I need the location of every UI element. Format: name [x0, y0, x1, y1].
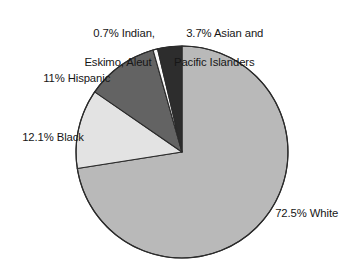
slice-label-asian-pacific-islanders-line1: 3.7% Asian and — [186, 27, 263, 39]
slice-label-asian-pacific-islanders-line2: Pacific Islanders — [174, 55, 294, 69]
slice-label-white-line1: 72.5% White — [275, 207, 338, 219]
slice-label-hispanic-line1: 11% Hispanic — [43, 72, 110, 84]
slice-label-hispanic: 11% Hispanic — [31, 57, 110, 100]
slice-label-indian-eskimo-aleut-line1: 0.7% Indian, — [93, 27, 155, 39]
slice-label-white: 72.5% White — [263, 192, 338, 235]
pie-chart-figure: 0.7% Indian, Eskimo, Aleut 3.7% Asian an… — [0, 0, 362, 272]
slice-label-black: 12.1% Black — [10, 116, 84, 159]
slice-label-black-line1: 12.1% Black — [22, 131, 84, 143]
slice-label-asian-pacific-islanders: 3.7% Asian and Pacific Islanders — [174, 12, 294, 98]
